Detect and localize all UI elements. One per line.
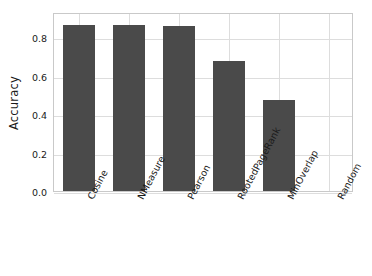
bar-chart: Accuracy 0.00.20.40.60.8 CosineNMeasureP…: [0, 0, 372, 276]
y-axis-tick-labels: 0.00.20.40.60.8: [24, 13, 51, 192]
y-axis-title-text: Accuracy: [7, 75, 21, 129]
bar: [163, 26, 195, 191]
y-tick-label: 0.8: [32, 33, 47, 44]
y-tick-label: 0.4: [32, 110, 47, 121]
bar: [213, 61, 245, 191]
y-tick-label: 0.0: [32, 187, 47, 198]
y-tick-label: 0.6: [32, 71, 47, 82]
bar: [113, 25, 145, 191]
x-axis-tick-labels: CosineNMeasurePearsonRootedPageRankMinOv…: [53, 192, 353, 276]
bar: [63, 25, 95, 191]
y-tick-label: 0.2: [32, 148, 47, 159]
